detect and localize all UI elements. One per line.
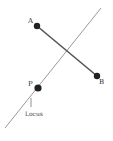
point-a[interactable] [34,23,40,29]
segment-ab [37,26,97,76]
locus-diagram: A B P Locus [0,0,113,141]
point-a-label: A [27,17,34,25]
point-b-label: B [99,78,104,86]
point-p[interactable] [34,84,41,91]
locus-label: Locus [25,110,43,117]
point-p-label: P [28,80,33,88]
